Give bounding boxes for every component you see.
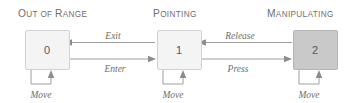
state-header-manipulating: MANIPULATING — [267, 8, 334, 19]
header-of: OF — [40, 10, 55, 19]
self-loop-line-state1 — [163, 70, 183, 84]
header-rest-anipulating: ANIPULATING — [276, 10, 334, 19]
edge-label-press: Press — [227, 64, 249, 74]
header-cap-p: P — [153, 8, 160, 19]
self-loop-line-state2 — [299, 70, 319, 84]
state-machine-diagram: OUT OF RANGE POINTING MANIPULATING — [0, 0, 348, 103]
self-loop-arrow-state0 — [48, 70, 55, 78]
header-cap-r: R — [55, 8, 63, 19]
transition-arrow-enter — [148, 56, 156, 63]
self-loop-label-state1: Move — [161, 90, 183, 100]
header-cap-o: O — [18, 8, 26, 19]
diagram-canvas: OUT OF RANGE POINTING MANIPULATING — [0, 0, 348, 103]
self-loop-line-state0 — [31, 70, 51, 84]
header-cap-m: M — [267, 8, 276, 19]
self-loop-label-state2: Move — [297, 90, 319, 100]
header-rest-ange: ANGE — [63, 10, 88, 19]
edge-label-release: Release — [224, 31, 255, 41]
header-rest-ut: UT — [26, 10, 37, 19]
state-header-out-of-range: OUT OF RANGE — [18, 8, 88, 19]
state-label-2: 2 — [312, 44, 318, 56]
self-loop-arrow-state2 — [316, 70, 323, 78]
state-label-1: 1 — [176, 44, 182, 56]
state-label-0: 0 — [44, 44, 50, 56]
state-header-pointing: POINTING — [153, 8, 197, 19]
self-loop-label-state0: Move — [29, 90, 51, 100]
edge-label-exit: Exit — [104, 31, 121, 41]
transition-arrow-press — [284, 56, 292, 63]
edge-label-enter: Enter — [103, 64, 125, 74]
self-loop-arrow-state1 — [180, 70, 187, 78]
header-rest-ointing: OINTING — [160, 10, 197, 19]
